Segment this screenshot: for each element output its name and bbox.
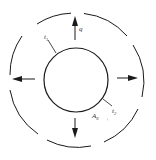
inner-temp-leader <box>48 40 56 53</box>
flux-label: q <box>79 25 83 33</box>
inner-circle <box>44 48 108 112</box>
arrow-left-icon <box>12 76 35 82</box>
outer-temp-leader <box>103 99 112 106</box>
arrow-right-icon <box>117 75 138 81</box>
area-label: A0 <box>91 112 99 121</box>
arrow-down-icon <box>72 118 78 138</box>
heat-flow-diagram: q t1 t2 A0 + <box>0 0 156 160</box>
arrow-up-icon <box>72 16 78 40</box>
outer-circle <box>10 13 144 147</box>
plus-marker: + <box>106 117 109 122</box>
outer-temp-label: t2 <box>112 107 117 116</box>
inner-temp-label: t1 <box>44 33 48 42</box>
